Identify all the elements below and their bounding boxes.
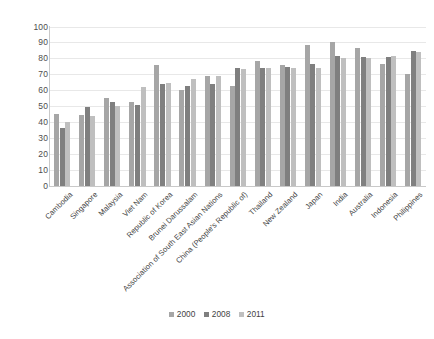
bar xyxy=(391,56,396,186)
bar xyxy=(115,106,120,186)
chart-legend: 200020082011 xyxy=(0,310,434,319)
bar xyxy=(210,84,215,186)
bar xyxy=(266,68,271,186)
bar xyxy=(341,58,346,186)
bar-group xyxy=(104,26,121,186)
bar xyxy=(135,105,140,186)
bar xyxy=(255,61,260,186)
bar xyxy=(355,48,360,186)
bar xyxy=(235,68,240,186)
bar-group xyxy=(204,26,221,186)
legend-swatch-icon xyxy=(239,312,244,317)
bar xyxy=(330,42,335,186)
bar xyxy=(79,115,84,186)
y-axis-tick-label: 20 xyxy=(22,150,48,158)
bar xyxy=(260,68,265,186)
legend-item[interactable]: 2008 xyxy=(204,310,230,319)
bar xyxy=(316,68,321,186)
bar xyxy=(386,57,391,186)
bar-group xyxy=(355,26,372,186)
legend-item[interactable]: 2011 xyxy=(239,310,264,319)
bar xyxy=(366,58,371,186)
y-axis-tick-label: 60 xyxy=(22,86,48,94)
y-axis-tick-label: 50 xyxy=(22,102,48,110)
bar xyxy=(380,64,385,186)
bar-group xyxy=(179,26,196,186)
bar xyxy=(291,68,296,186)
bar xyxy=(110,102,115,186)
bar xyxy=(280,65,285,186)
bar xyxy=(285,67,290,186)
bar-group xyxy=(79,26,96,186)
legend-swatch-icon xyxy=(169,312,174,317)
y-axis-tick-label: 90 xyxy=(22,38,48,46)
bar-group xyxy=(129,26,146,186)
bar xyxy=(54,114,59,186)
bar xyxy=(405,74,410,186)
bar xyxy=(160,84,165,186)
bar-group xyxy=(230,26,247,186)
bar xyxy=(154,65,159,186)
bar xyxy=(191,79,196,186)
bar xyxy=(185,86,190,186)
bar xyxy=(305,45,310,187)
bar xyxy=(205,76,210,187)
bar xyxy=(90,116,95,186)
bar xyxy=(416,52,421,186)
legend-label: 2000 xyxy=(177,310,195,319)
bar xyxy=(60,128,65,186)
bar xyxy=(361,57,366,186)
bar-group xyxy=(305,26,322,186)
bar xyxy=(310,64,315,186)
bar xyxy=(141,87,146,186)
legend-label: 2008 xyxy=(212,310,230,319)
bars-container xyxy=(50,26,426,186)
bar-group xyxy=(330,26,347,186)
bar-group xyxy=(405,26,422,186)
y-axis-tick-label: 40 xyxy=(22,118,48,126)
bar xyxy=(335,56,340,186)
plot-area: 0102030405060708090100 CambodiaSingapore… xyxy=(0,0,434,339)
y-axis-tick-label: 100 xyxy=(22,23,48,31)
bar xyxy=(230,86,235,186)
y-axis-tick-label: 80 xyxy=(22,54,48,62)
legend-swatch-icon xyxy=(204,312,209,317)
bar-group xyxy=(54,26,71,186)
legend-label: 2011 xyxy=(247,310,265,319)
bar xyxy=(241,69,246,186)
bar xyxy=(216,76,221,186)
bar-group xyxy=(255,26,272,186)
bar xyxy=(65,122,70,186)
bar xyxy=(104,98,109,186)
y-axis-tick-labels: 0102030405060708090100 xyxy=(22,20,48,186)
bar xyxy=(85,107,90,187)
bar xyxy=(166,83,171,186)
y-axis-tick-label: 70 xyxy=(22,70,48,78)
y-axis-tick-label: 10 xyxy=(22,166,48,174)
bar xyxy=(129,102,134,186)
legend-item[interactable]: 2000 xyxy=(169,310,195,319)
y-axis-tick-label: 30 xyxy=(22,134,48,142)
bar-group xyxy=(280,26,297,186)
y-axis-tick-label: 0 xyxy=(22,182,48,190)
bar-group xyxy=(154,26,171,186)
bar xyxy=(179,90,184,186)
bar-chart: 0102030405060708090100 CambodiaSingapore… xyxy=(0,0,434,339)
bar xyxy=(411,51,416,186)
bar-group xyxy=(380,26,397,186)
